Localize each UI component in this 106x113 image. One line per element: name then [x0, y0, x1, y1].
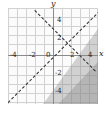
gridline-v — [8, 8, 9, 104]
y-tick-label-2: 2 — [57, 35, 61, 42]
x-tick-label-4: 4 — [88, 52, 92, 59]
x-tick-label--4: -4 — [10, 52, 17, 59]
x-tick-label-2: 2 — [70, 52, 74, 59]
gridline-v — [26, 8, 27, 104]
y-tick-label--2: -2 — [55, 70, 62, 77]
y-axis-label: y — [51, 0, 56, 8]
plot-area — [8, 8, 98, 104]
y-tick-label-4: 4 — [57, 17, 61, 24]
y-tick-label--4: -4 — [55, 88, 62, 95]
x-tick-label-0: 0 — [46, 52, 50, 59]
gridline-v — [44, 8, 45, 104]
graph-figure: -4 -2 0 2 4 4 2 -2 -4 y x — [0, 0, 106, 113]
x-tick-label--2: -2 — [29, 52, 36, 59]
gridline-v — [17, 8, 18, 104]
x-axis-label: x — [99, 50, 104, 58]
